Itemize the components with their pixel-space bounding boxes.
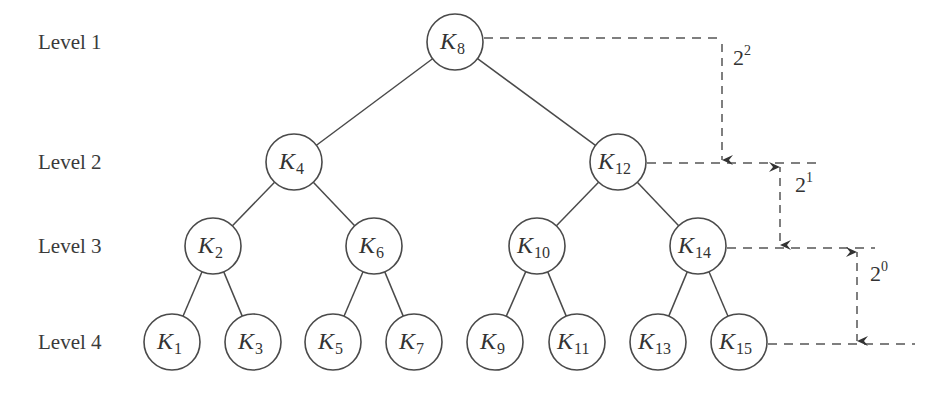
dimension-label-2-2: 22	[733, 43, 751, 70]
tree-node-k4: K4	[266, 134, 322, 190]
tree-node-k6: K6	[346, 218, 402, 274]
level-4-label: Level 4	[38, 330, 102, 354]
edge-K4-K6	[313, 182, 354, 225]
level-2-label: Level 2	[38, 150, 102, 174]
edge-K4-K2	[232, 182, 274, 226]
dimension-guides: 22 21 20	[484, 38, 915, 344]
edge-K14-K13	[669, 272, 687, 316]
tree-node-k8: K8	[427, 14, 483, 70]
tree-node-k2: K2	[185, 218, 241, 274]
edge-K12-K10	[556, 182, 598, 226]
level-3-label: Level 3	[38, 234, 102, 258]
tree-node-k3: K3	[225, 314, 281, 370]
edge-K12-K14	[637, 182, 678, 225]
edge-K6-K7	[385, 272, 403, 316]
tree-node-k12: K12	[590, 134, 646, 190]
tree-edges	[183, 59, 728, 317]
tree-node-k5: K5	[305, 314, 361, 370]
dimension-label-2-0: 20	[870, 259, 888, 286]
edge-K14-K15	[709, 272, 728, 317]
level-labels: Level 1 Level 2 Level 3 Level 4	[38, 30, 102, 354]
tree-node-k14: K14	[670, 218, 726, 274]
edge-K8-K12	[478, 59, 596, 146]
dimension-label-2-1: 21	[795, 170, 813, 197]
edge-K10-K11	[548, 272, 566, 316]
edge-K10-K9	[506, 272, 526, 317]
tree-node-k15: K15	[711, 314, 767, 370]
tree-node-k13: K13	[630, 314, 686, 370]
edge-K6-K5	[344, 272, 363, 317]
tree-node-k11: K11	[549, 314, 605, 370]
tree-node-k10: K10	[509, 218, 565, 274]
tree-node-k1: K1	[144, 314, 200, 370]
tree-node-k9: K9	[467, 314, 523, 370]
tree-nodes: K8K4K12K2K6K10K14K1K3K5K7K9K11K13K15	[144, 14, 767, 370]
binary-tree-diagram: Level 1 Level 2 Level 3 Level 4 22 21 20…	[0, 0, 950, 395]
edge-K2-K3	[224, 272, 242, 316]
edge-K8-K4	[316, 59, 432, 146]
tree-node-k7: K7	[386, 314, 442, 370]
level-1-label: Level 1	[38, 30, 102, 54]
edge-K2-K1	[183, 272, 202, 317]
